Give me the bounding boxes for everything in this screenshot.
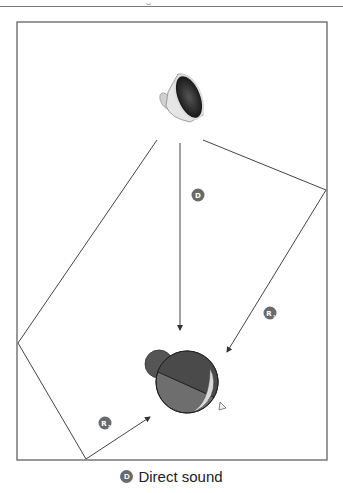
speaker-icon [157,71,209,123]
reflection-path-r2 [18,140,157,459]
legend-label: Direct sound [138,468,222,485]
legend-caption: D Direct sound [0,468,343,485]
svg-text:D: D [195,192,201,200]
svg-text:R: R [266,310,272,318]
badge-reflection-1: R 1 [264,307,277,320]
listener-head-icon [145,350,226,413]
svg-text:1: 1 [273,314,276,319]
legend-badge-direct: D [120,470,133,483]
room-diagram: D R 1 R 2 [0,0,343,493]
svg-text:R: R [101,420,107,428]
badge-reflection-2: R 2 [99,417,112,430]
reflection-path-r1 [203,140,326,352]
badge-direct: D [192,189,205,202]
svg-text:2: 2 [108,424,111,429]
